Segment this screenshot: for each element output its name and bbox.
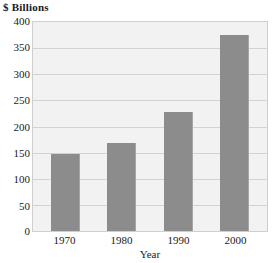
bar-1980 xyxy=(107,143,136,231)
bars xyxy=(33,22,267,231)
y-tick-label-100: 100 xyxy=(14,174,31,185)
bar-slot-1970 xyxy=(37,22,94,231)
bar-slot-2000 xyxy=(207,22,264,231)
x-axis: 1970 1980 1990 2000 xyxy=(32,234,268,246)
bar-slot-1980 xyxy=(94,22,151,231)
chart-title: $ Billions xyxy=(3,1,49,14)
x-axis-title: Year xyxy=(32,248,268,260)
y-tick-label-0: 0 xyxy=(25,226,31,237)
x-tick-label-1980: 1980 xyxy=(93,234,150,246)
y-tick-label-50: 50 xyxy=(19,200,30,211)
bar-1990 xyxy=(164,112,193,231)
y-axis: 400 350 300 250 200 150 100 50 0 xyxy=(0,21,30,232)
bar-slot-1990 xyxy=(150,22,207,231)
bar-2000 xyxy=(220,35,249,231)
y-tick-label-200: 200 xyxy=(14,121,31,132)
y-tick-label-150: 150 xyxy=(14,147,31,158)
y-tick-label-400: 400 xyxy=(14,16,31,27)
y-tick-label-350: 350 xyxy=(14,42,31,53)
y-tick-label-300: 300 xyxy=(14,68,31,79)
x-tick-label-2000: 2000 xyxy=(207,234,264,246)
bar-1970 xyxy=(51,154,80,231)
x-tick-label-1970: 1970 xyxy=(36,234,93,246)
y-tick-label-250: 250 xyxy=(14,95,31,106)
x-tick-label-1990: 1990 xyxy=(150,234,207,246)
plot-area xyxy=(32,21,268,232)
bar-chart: $ Billions 400 350 300 250 200 150 100 5… xyxy=(0,0,280,263)
